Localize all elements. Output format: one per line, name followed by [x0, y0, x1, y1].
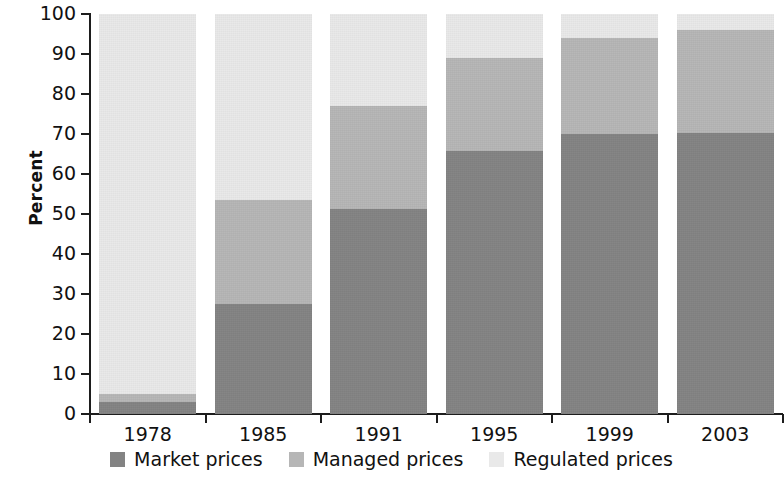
bar-group-1995[interactable]: [446, 14, 543, 414]
texture-overlay: [677, 14, 774, 30]
texture-overlay: [446, 14, 543, 58]
bar-group-1985[interactable]: [215, 14, 312, 414]
bar-group-2003[interactable]: [677, 14, 774, 414]
texture-overlay: [330, 209, 427, 414]
texture-overlay: [446, 151, 543, 414]
y-tick-label-20: 20: [0, 324, 76, 343]
bar-group-1999[interactable]: [561, 14, 658, 414]
legend-swatch-icon: [110, 452, 125, 467]
texture-overlay: [561, 14, 658, 38]
bar-segment-managed-prices-1978[interactable]: [99, 394, 196, 402]
texture-overlay: [330, 106, 427, 209]
bar-segment-market-prices-1985[interactable]: [215, 304, 312, 414]
legend-item-market-prices[interactable]: Market prices: [110, 450, 263, 469]
bar-segment-regulated-prices-1985[interactable]: [215, 14, 312, 200]
y-tick-50: [81, 213, 90, 215]
x-tick-5: [667, 414, 669, 423]
bar-segment-market-prices-2003[interactable]: [677, 133, 774, 414]
texture-overlay: [215, 200, 312, 304]
bar-segment-managed-prices-1999[interactable]: [561, 38, 658, 134]
y-tick-label-70: 70: [0, 124, 76, 143]
legend-label: Managed prices: [313, 450, 464, 469]
y-tick-label-90: 90: [0, 44, 76, 63]
texture-overlay: [446, 58, 543, 151]
bar-segment-market-prices-1991[interactable]: [330, 209, 427, 414]
bar-segment-managed-prices-1995[interactable]: [446, 58, 543, 151]
x-tick-0: [89, 414, 91, 423]
legend-item-managed-prices[interactable]: Managed prices: [289, 450, 464, 469]
texture-overlay: [215, 14, 312, 200]
x-tick-label-1985: 1985: [206, 425, 322, 444]
bar-segment-market-prices-1978[interactable]: [99, 402, 196, 414]
x-tick-4: [551, 414, 553, 423]
bar-segment-managed-prices-2003[interactable]: [677, 30, 774, 133]
x-tick-label-1978: 1978: [90, 425, 206, 444]
texture-overlay: [677, 133, 774, 414]
y-axis-title: Percent: [26, 128, 46, 248]
x-tick-label-2003: 2003: [668, 425, 784, 444]
bar-segment-managed-prices-1991[interactable]: [330, 106, 427, 209]
legend-item-regulated-prices[interactable]: Regulated prices: [489, 450, 673, 469]
texture-overlay: [215, 304, 312, 414]
bar-segment-regulated-prices-2003[interactable]: [677, 14, 774, 30]
bar-segment-regulated-prices-1991[interactable]: [330, 14, 427, 106]
y-tick-70: [81, 133, 90, 135]
x-tick-1: [205, 414, 207, 423]
y-tick-40: [81, 253, 90, 255]
x-tick-2: [320, 414, 322, 423]
texture-overlay: [561, 134, 658, 414]
legend-swatch-icon: [289, 452, 304, 467]
x-tick-3: [436, 414, 438, 423]
texture-overlay: [99, 14, 196, 394]
plot-area: [90, 14, 783, 414]
y-tick-label-10: 10: [0, 364, 76, 383]
y-tick-label-80: 80: [0, 84, 76, 103]
y-tick-60: [81, 173, 90, 175]
texture-overlay: [99, 394, 196, 402]
y-tick-label-30: 30: [0, 284, 76, 303]
y-tick-30: [81, 293, 90, 295]
chart-legend: Market pricesManaged pricesRegulated pri…: [0, 450, 783, 469]
texture-overlay: [561, 38, 658, 134]
bar-segment-market-prices-1999[interactable]: [561, 134, 658, 414]
bar-segment-regulated-prices-1978[interactable]: [99, 14, 196, 394]
texture-overlay: [330, 14, 427, 106]
y-tick-100: [81, 13, 90, 15]
y-tick-10: [81, 373, 90, 375]
x-tick-label-1999: 1999: [552, 425, 668, 444]
y-tick-label-60: 60: [0, 164, 76, 183]
x-tick-label-1995: 1995: [437, 425, 553, 444]
y-tick-label-0: 0: [0, 404, 76, 423]
y-tick-label-100: 100: [0, 4, 76, 23]
y-tick-20: [81, 333, 90, 335]
bar-segment-managed-prices-1985[interactable]: [215, 200, 312, 304]
texture-overlay: [99, 402, 196, 414]
texture-overlay: [677, 30, 774, 133]
y-tick-label-50: 50: [0, 204, 76, 223]
legend-swatch-icon: [489, 452, 504, 467]
bar-group-1991[interactable]: [330, 14, 427, 414]
y-tick-90: [81, 53, 90, 55]
x-tick-label-1991: 1991: [321, 425, 437, 444]
bar-group-1978[interactable]: [99, 14, 196, 414]
legend-label: Regulated prices: [513, 450, 673, 469]
y-tick-label-40: 40: [0, 244, 76, 263]
bar-segment-regulated-prices-1995[interactable]: [446, 14, 543, 58]
bar-segment-market-prices-1995[interactable]: [446, 151, 543, 414]
legend-label: Market prices: [134, 450, 263, 469]
bar-segment-regulated-prices-1999[interactable]: [561, 14, 658, 38]
y-tick-80: [81, 93, 90, 95]
